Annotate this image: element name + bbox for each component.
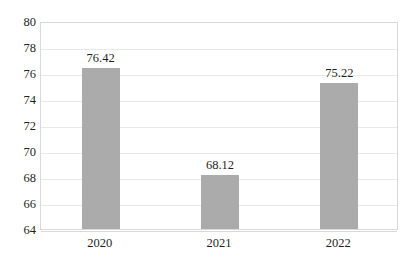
y-axis-tick-label: 76 bbox=[2, 68, 36, 80]
x-axis-tick-label: 2022 bbox=[326, 236, 351, 250]
x-axis-tick-label: 2021 bbox=[207, 236, 232, 250]
bar[interactable] bbox=[82, 68, 120, 229]
y-axis-tick-label: 68 bbox=[2, 172, 36, 184]
x-axis: 202020212022 bbox=[40, 236, 398, 256]
y-axis-tick-label: 70 bbox=[2, 146, 36, 158]
bar[interactable] bbox=[201, 175, 239, 229]
bars-layer: 76.4268.1275.22 bbox=[41, 23, 397, 229]
bar-value-label: 75.22 bbox=[325, 67, 353, 80]
bar-value-label: 68.12 bbox=[206, 159, 234, 172]
gridline bbox=[41, 231, 397, 232]
bar-slot: 75.22 bbox=[280, 23, 399, 229]
bar-slot: 76.42 bbox=[41, 23, 160, 229]
y-axis: 807876747270686664 bbox=[0, 22, 36, 230]
bar-slot: 68.12 bbox=[160, 23, 279, 229]
y-axis-tick-label: 64 bbox=[2, 224, 36, 236]
y-axis-tick-label: 72 bbox=[2, 120, 36, 132]
y-axis-tick-label: 80 bbox=[2, 16, 36, 28]
x-axis-tick-label: 2020 bbox=[87, 236, 112, 250]
bar-value-label: 76.42 bbox=[87, 52, 115, 65]
y-axis-tick-label: 74 bbox=[2, 94, 36, 106]
y-axis-tick-label: 66 bbox=[2, 198, 36, 210]
bar-chart: 807876747270686664 76.4268.1275.22 20202… bbox=[0, 0, 415, 265]
bar[interactable] bbox=[320, 83, 358, 229]
plot-area: 76.4268.1275.22 bbox=[40, 22, 398, 230]
y-axis-tick-label: 78 bbox=[2, 42, 36, 54]
